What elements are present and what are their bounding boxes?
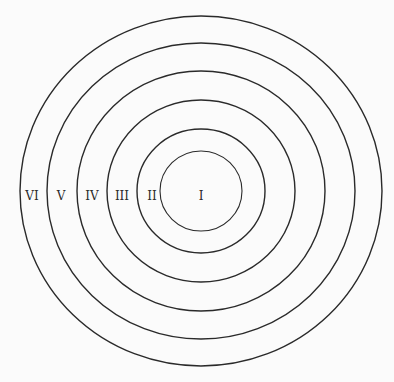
labels-group: IIIIIIIVVVI — [24, 189, 203, 203]
ring-label-iv: IV — [85, 189, 99, 203]
ring-label-v: V — [56, 189, 66, 203]
concentric-circles-diagram: IIIIIIIVVVI — [0, 0, 394, 382]
ring-label-iii: III — [115, 189, 129, 203]
ring-label-i: I — [199, 189, 204, 203]
ring-label-ii: II — [147, 189, 157, 203]
ring-label-vi: VI — [24, 189, 39, 203]
